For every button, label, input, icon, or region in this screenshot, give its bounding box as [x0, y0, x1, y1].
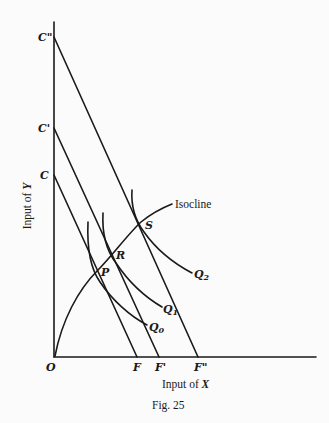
label-c: C — [40, 169, 49, 182]
label-isocline: Isocline — [175, 198, 211, 210]
label-point-p: P — [100, 266, 110, 279]
x-axis-title: Input of X — [162, 378, 210, 391]
isoquant-q1 — [103, 213, 162, 307]
y-axis-title: Input of Y — [21, 182, 34, 230]
label-f1: F' — [154, 361, 166, 374]
isocline-diagram: C" C' C O F F' F" P R S Q0 Q1 Q2 Isoclin… — [0, 0, 329, 423]
label-c1: C' — [38, 122, 50, 135]
label-q1: Q1 — [163, 303, 178, 317]
label-f: F — [132, 361, 142, 374]
label-point-s: S — [145, 219, 153, 232]
figure-caption: Fig. 25 — [152, 399, 185, 412]
label-point-r: R — [115, 249, 125, 262]
budget-line-cf — [54, 175, 137, 357]
label-q2: Q2 — [194, 268, 210, 282]
label-c2: C" — [38, 31, 53, 44]
label-q0: Q0 — [149, 321, 165, 335]
label-f2: F" — [193, 361, 208, 374]
label-origin: O — [46, 361, 56, 374]
